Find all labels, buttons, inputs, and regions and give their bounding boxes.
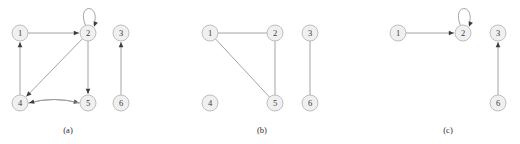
node-3[interactable]: 3 [490,25,506,41]
panel-a-caption: (a) [63,125,73,135]
node-3[interactable]: 3 [113,25,129,41]
node-6[interactable]: 6 [490,95,506,111]
node-1[interactable]: 1 [390,25,406,41]
edge-5-4-curve [29,100,80,104]
node-4[interactable]: 4 [12,95,28,111]
edge-6-3-arrowhead [119,42,124,47]
node-1-label: 1 [208,28,212,38]
node-4[interactable]: 4 [202,95,218,111]
panel-b-caption: (b) [257,125,267,135]
node-2-label: 2 [273,28,277,38]
panel-a-edges [18,9,124,104]
edge-6-3-arrowhead [496,42,501,47]
edge-4-1-arrowhead [18,42,23,47]
node-1-label: 1 [396,28,400,38]
node-5-label: 5 [273,98,277,108]
edge-1-5 [215,39,269,97]
edge-2-2-self-loop [83,9,95,26]
panel-c-edges [406,9,500,95]
node-3-label: 3 [308,28,312,38]
node-2[interactable]: 2 [80,25,96,41]
node-2[interactable]: 2 [267,25,283,41]
node-6-label: 6 [119,98,123,108]
edge-2-5-arrowhead [86,89,91,94]
graph-canvas: 123456(a)123456(b)1236(c) [0,0,520,144]
edge-2-2-arrowhead [469,21,473,27]
node-3[interactable]: 3 [302,25,318,41]
edge-2-2-self-loop [458,9,470,26]
graph-figure: 123456(a)123456(b)1236(c) [0,0,520,144]
node-2-label: 2 [86,28,90,38]
node-6[interactable]: 6 [113,95,129,111]
node-5-label: 5 [86,98,90,108]
node-2-label: 2 [461,28,465,38]
node-1[interactable]: 1 [12,25,28,41]
panel-b-edges [215,33,310,97]
edge-1-2-arrowhead [449,31,454,36]
node-5[interactable]: 5 [267,95,283,111]
node-3-label: 3 [119,28,123,38]
node-6-label: 6 [308,98,312,108]
node-1-label: 1 [18,28,22,38]
panel-b: 123456(b) [202,25,318,135]
node-5[interactable]: 5 [80,95,96,111]
node-1[interactable]: 1 [202,25,218,41]
panel-c: 1236(c) [390,9,506,135]
edge-1-2-arrowhead [74,31,79,36]
node-3-label: 3 [496,28,500,38]
node-2[interactable]: 2 [455,25,471,41]
node-6-label: 6 [496,98,500,108]
edge-2-2-arrowhead [94,21,98,27]
panel-a: 123456(a) [12,9,129,135]
edge-2-4 [26,39,82,97]
node-6[interactable]: 6 [302,95,318,111]
panel-c-caption: (c) [443,125,453,135]
